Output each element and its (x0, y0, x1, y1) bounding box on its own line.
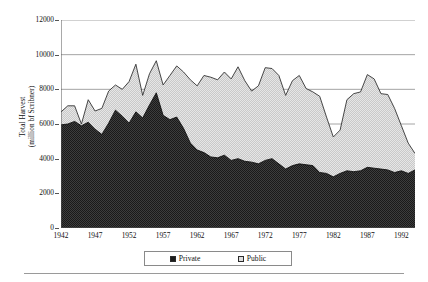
y-tick-label: 12000 (36, 16, 54, 24)
x-tick-label: 1962 (182, 231, 212, 240)
y-tick (55, 55, 59, 56)
x-tick-label: 1992 (386, 231, 416, 240)
legend-item-private: Private (170, 255, 201, 263)
bottom-divider (24, 273, 404, 274)
plot-area (61, 20, 415, 228)
y-tick-label: 10000 (36, 51, 54, 59)
legend-label-public: Public (247, 255, 266, 263)
x-tick-label: 1987 (352, 231, 382, 240)
x-tick-label: 1947 (80, 231, 110, 240)
legend-item-public: Public (238, 255, 266, 263)
legend-swatch-private-icon (170, 256, 176, 262)
chart-figure: Total Harvest (million bf Scribner) 0200… (0, 0, 428, 282)
legend-swatch-public-icon (238, 256, 244, 262)
x-tick-label: 1942 (46, 231, 76, 240)
y-tick (55, 228, 59, 229)
y-tick-label: 2000 (39, 189, 54, 197)
y-tick-label: 4000 (39, 155, 54, 163)
x-tick-label: 1972 (250, 231, 280, 240)
y-tick (55, 124, 59, 125)
x-axis-tick-labels: 1942194719521957196219671972197719821987… (0, 231, 428, 245)
x-tick-label: 1952 (114, 231, 144, 240)
y-tick (55, 89, 59, 90)
y-tick-label: 8000 (39, 85, 54, 93)
stacked-area-chart (61, 20, 415, 228)
legend-label-private: Private (179, 255, 201, 263)
y-tick (55, 159, 59, 160)
chart-legend: Private Public (144, 251, 292, 266)
x-tick-label: 1957 (148, 231, 178, 240)
x-tick-label: 1977 (284, 231, 314, 240)
y-tick (55, 20, 59, 21)
x-tick-label: 1982 (318, 231, 348, 240)
y-tick-label: 6000 (39, 120, 54, 128)
y-tick (55, 193, 59, 194)
x-tick-label: 1967 (216, 231, 246, 240)
